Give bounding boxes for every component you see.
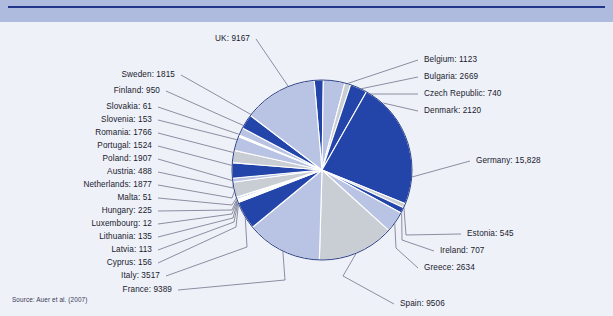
slice-label-belgium: Belgium: 1123 <box>424 55 477 65</box>
leader-line <box>158 172 233 188</box>
slice-label-netherlands: Netherlands: 1877 <box>83 180 152 190</box>
header-band <box>0 0 613 22</box>
leader-line <box>158 197 237 205</box>
slice-label-slovakia: Slovakia: 61 <box>106 102 152 112</box>
slice-label-malta: Malta: 51 <box>117 193 152 203</box>
leader-line <box>158 107 253 139</box>
leader-line <box>343 252 394 304</box>
leader-line <box>402 210 434 251</box>
leader-line <box>404 205 461 235</box>
slice-label-finland: Finland: 950 <box>114 86 160 96</box>
leader-line <box>158 146 238 167</box>
slice-label-ireland: Ireland: 707 <box>440 246 484 256</box>
header-rule <box>8 6 605 8</box>
slice-label-greece: Greece: 2634 <box>424 263 475 273</box>
slice-label-romania: Romania: 1766 <box>95 128 152 138</box>
slice-label-estonia: Estonia: 545 <box>467 229 514 239</box>
leader-line <box>158 185 235 198</box>
slice-label-germany: Germany: 15,828 <box>476 156 541 166</box>
leader-line <box>256 39 288 92</box>
slice-label-latvia: Latvia: 113 <box>111 245 152 255</box>
slice-label-france: France: 9389 <box>123 285 172 295</box>
slice-label-slovenia: Slovenia: 153 <box>101 115 152 125</box>
slice-label-bulgaria: Bulgaria: 2669 <box>424 72 478 82</box>
leader-line <box>158 133 243 155</box>
pie-chart-container: Belgium: 1123Bulgaria: 2669Czech Republi… <box>0 22 613 316</box>
slice-label-poland: Poland: 1907 <box>103 154 152 164</box>
slice-label-czech-republic: Czech Republic: 740 <box>424 89 501 99</box>
leader-line <box>158 199 238 224</box>
slice-label-portugal: Portugal: 1524 <box>97 141 152 151</box>
slice-label-cyprus: Cyprus: 156 <box>107 258 152 268</box>
source-note: Source: Auer et al. (2007) <box>12 296 87 303</box>
slice-label-austria: Austria: 488 <box>107 167 152 177</box>
slice-label-lithuania: Lithuania: 135 <box>99 232 152 242</box>
leader-line <box>158 120 250 143</box>
leader-line <box>158 201 238 250</box>
leader-line <box>158 159 234 181</box>
leader-line <box>406 141 470 177</box>
slice-label-italy: Italy: 3517 <box>121 271 160 281</box>
leader-line <box>166 215 247 276</box>
leader-line <box>178 250 285 290</box>
slice-label-hungary: Hungary: 225 <box>102 206 152 216</box>
slice-label-denmark: Denmark: 2120 <box>424 106 481 116</box>
slice-label-uk: UK: 9167 <box>215 34 250 44</box>
pie-chart-svg <box>0 22 613 316</box>
slice-label-sweden: Sweden: 1815 <box>121 70 175 80</box>
leader-line <box>395 222 418 268</box>
slice-label-spain: Spain: 9506 <box>400 299 445 309</box>
chart-panel: Belgium: 1123Bulgaria: 2669Czech Republi… <box>0 22 613 316</box>
pie-slices-group <box>232 80 412 260</box>
slice-label-luxembourg: Luxembourg: 12 <box>91 219 152 229</box>
